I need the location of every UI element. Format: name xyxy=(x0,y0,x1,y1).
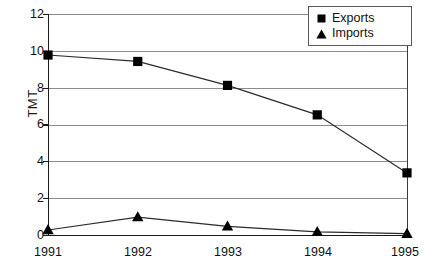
data-point-imports xyxy=(401,228,412,238)
x-tick-label: 1995 xyxy=(375,246,427,259)
series-line-exports xyxy=(48,55,407,173)
data-point-exports xyxy=(43,50,52,59)
x-tick-label: 1992 xyxy=(108,246,168,259)
legend-label: Exports xyxy=(332,12,374,25)
triangle-marker-icon xyxy=(315,27,328,40)
data-point-exports xyxy=(402,168,411,177)
square-marker-icon xyxy=(315,12,328,25)
line-chart: TMT 12 10 8 6 4 2 0 xyxy=(0,0,427,269)
series-markers-exports xyxy=(43,50,411,177)
legend-item-exports: Exports xyxy=(315,11,404,26)
data-point-exports xyxy=(313,110,322,119)
series-markers-imports xyxy=(42,211,412,238)
chart-legend: Exports Imports xyxy=(308,6,412,46)
x-tick-label: 1994 xyxy=(288,246,348,259)
data-point-imports xyxy=(132,211,143,221)
y-axis-ticks xyxy=(43,15,48,236)
x-tick-label: 1991 xyxy=(18,246,78,259)
data-point-exports xyxy=(223,81,232,90)
x-tick-label: 1993 xyxy=(198,246,258,259)
data-point-exports xyxy=(133,57,142,66)
legend-label: Imports xyxy=(332,27,374,40)
legend-item-imports: Imports xyxy=(315,26,404,41)
